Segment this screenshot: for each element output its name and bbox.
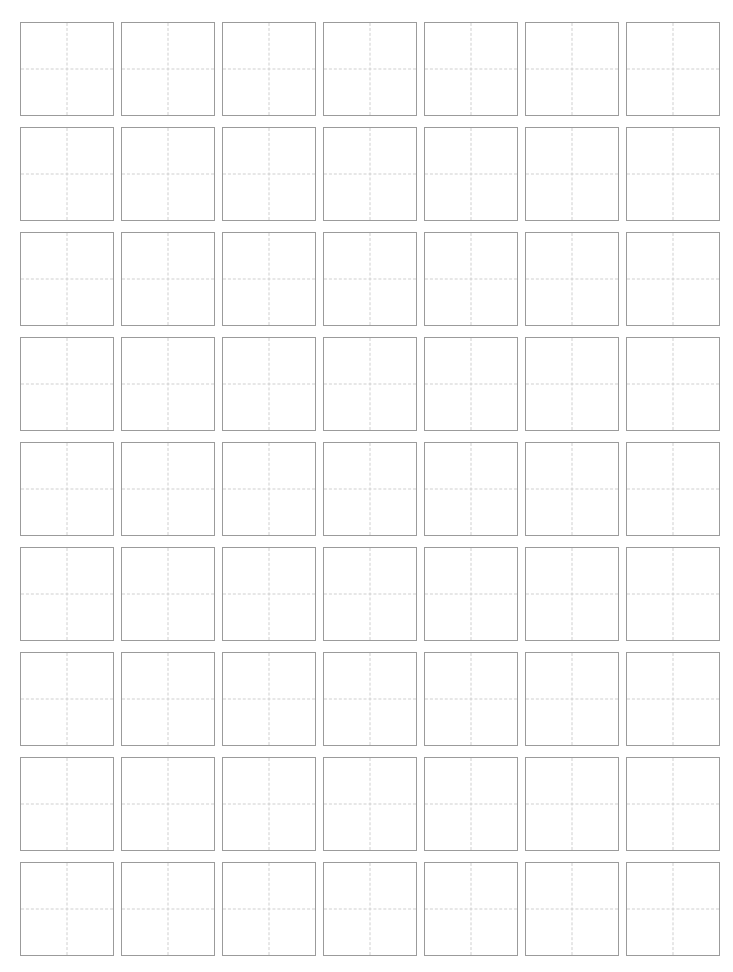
practice-cell[interactable] [222, 232, 316, 326]
practice-cell-text [627, 443, 719, 535]
practice-cell[interactable] [121, 547, 215, 641]
practice-cell-text [324, 758, 416, 850]
practice-cell[interactable] [121, 442, 215, 536]
practice-cell[interactable] [626, 232, 720, 326]
practice-cell[interactable] [525, 547, 619, 641]
practice-cell[interactable] [121, 337, 215, 431]
practice-cell-text [122, 653, 214, 745]
practice-cell[interactable] [121, 232, 215, 326]
practice-cell[interactable] [121, 862, 215, 956]
practice-cell-text [627, 23, 719, 115]
practice-cell[interactable] [222, 757, 316, 851]
practice-cell[interactable] [626, 22, 720, 116]
practice-cell-text [425, 128, 517, 220]
practice-cell[interactable] [20, 22, 114, 116]
practice-cell[interactable] [424, 652, 518, 746]
practice-cell[interactable] [424, 757, 518, 851]
practice-cell[interactable] [20, 757, 114, 851]
practice-cell[interactable] [121, 127, 215, 221]
practice-cell-text [122, 863, 214, 955]
practice-cell[interactable] [525, 442, 619, 536]
practice-cell[interactable] [121, 757, 215, 851]
practice-cell[interactable] [121, 22, 215, 116]
practice-cell[interactable] [525, 862, 619, 956]
practice-cell[interactable] [424, 862, 518, 956]
practice-cell[interactable] [222, 547, 316, 641]
practice-cell-text [627, 653, 719, 745]
practice-cell[interactable] [525, 757, 619, 851]
practice-cell-text [526, 128, 618, 220]
practice-cell[interactable] [323, 127, 417, 221]
practice-cell[interactable] [20, 337, 114, 431]
practice-cell[interactable] [20, 442, 114, 536]
practice-cell[interactable] [323, 652, 417, 746]
practice-cell[interactable] [626, 862, 720, 956]
practice-cell-text [425, 548, 517, 640]
practice-cell[interactable] [20, 862, 114, 956]
practice-cell-text [526, 338, 618, 430]
practice-cell[interactable] [323, 232, 417, 326]
practice-cell-text [324, 443, 416, 535]
practice-cell[interactable] [424, 547, 518, 641]
practice-cell[interactable] [626, 442, 720, 536]
practice-cell-text [425, 23, 517, 115]
practice-cell[interactable] [323, 22, 417, 116]
practice-cell[interactable] [222, 127, 316, 221]
practice-sheet-page [0, 0, 733, 972]
practice-cell-text [627, 863, 719, 955]
practice-cell[interactable] [424, 442, 518, 536]
practice-cell[interactable] [525, 127, 619, 221]
practice-cell-text [425, 758, 517, 850]
practice-cell-text [627, 338, 719, 430]
practice-cell[interactable] [222, 337, 316, 431]
practice-cell-text [526, 758, 618, 850]
practice-cell-text [122, 23, 214, 115]
character-practice-grid [20, 22, 720, 956]
practice-cell[interactable] [20, 652, 114, 746]
practice-cell[interactable] [626, 652, 720, 746]
practice-cell[interactable] [222, 862, 316, 956]
practice-cell[interactable] [424, 22, 518, 116]
practice-cell-text [122, 758, 214, 850]
practice-cell-text [324, 233, 416, 325]
practice-cell[interactable] [323, 442, 417, 536]
practice-cell-text [526, 653, 618, 745]
practice-cell[interactable] [20, 127, 114, 221]
practice-cell-text [223, 863, 315, 955]
practice-cell-text [324, 128, 416, 220]
practice-cell[interactable] [525, 22, 619, 116]
practice-cell-text [526, 23, 618, 115]
practice-cell[interactable] [121, 652, 215, 746]
practice-cell[interactable] [20, 232, 114, 326]
practice-cell[interactable] [222, 442, 316, 536]
practice-cell[interactable] [525, 232, 619, 326]
practice-cell[interactable] [323, 547, 417, 641]
practice-cell[interactable] [424, 127, 518, 221]
practice-cell-text [223, 128, 315, 220]
practice-cell-text [223, 758, 315, 850]
practice-cell-text [324, 863, 416, 955]
practice-cell[interactable] [525, 337, 619, 431]
practice-cell-text [223, 338, 315, 430]
practice-cell-text [223, 443, 315, 535]
practice-cell-text [122, 233, 214, 325]
practice-cell[interactable] [626, 127, 720, 221]
practice-cell-text [223, 548, 315, 640]
practice-cell[interactable] [626, 337, 720, 431]
practice-cell[interactable] [525, 652, 619, 746]
practice-cell[interactable] [323, 862, 417, 956]
practice-cell[interactable] [626, 757, 720, 851]
practice-cell-text [324, 548, 416, 640]
practice-cell[interactable] [222, 22, 316, 116]
practice-cell[interactable] [20, 547, 114, 641]
practice-cell[interactable] [222, 652, 316, 746]
practice-cell[interactable] [626, 547, 720, 641]
practice-cell-text [627, 548, 719, 640]
practice-cell[interactable] [424, 232, 518, 326]
practice-cell[interactable] [424, 337, 518, 431]
practice-cell-text [223, 23, 315, 115]
practice-cell[interactable] [323, 337, 417, 431]
practice-cell-text [324, 338, 416, 430]
practice-cell[interactable] [323, 757, 417, 851]
practice-cell-text [223, 233, 315, 325]
